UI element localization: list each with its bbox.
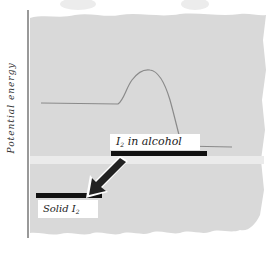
decorative-blob: [181, 0, 209, 10]
label-solid-text: Solid I: [43, 203, 76, 214]
label-solid-i2: Solid I2: [38, 200, 98, 218]
light-band: [30, 156, 264, 164]
y-axis-label: Potential energy: [6, 58, 18, 158]
level-bar-i2-alcohol: [111, 151, 207, 156]
label-in-alcohol-text: in alcohol: [124, 135, 182, 148]
energy-diagram: I2 in alcohol Solid I2 Potential energy: [0, 0, 277, 257]
decorative-blob: [60, 0, 96, 10]
label-i2-in-alcohol: I2 in alcohol: [110, 134, 200, 150]
label-solid-subscript: 2: [76, 208, 80, 215]
diagram-canvas: [0, 0, 277, 257]
